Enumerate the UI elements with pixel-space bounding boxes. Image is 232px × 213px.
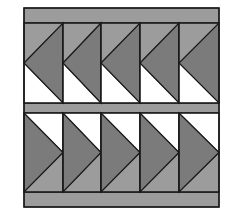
top-band [24,8,219,23]
quilt-block-diagram [0,0,232,213]
middle-band [24,103,219,113]
bottom-band [24,192,219,207]
quilt-block-canvas [0,0,232,213]
